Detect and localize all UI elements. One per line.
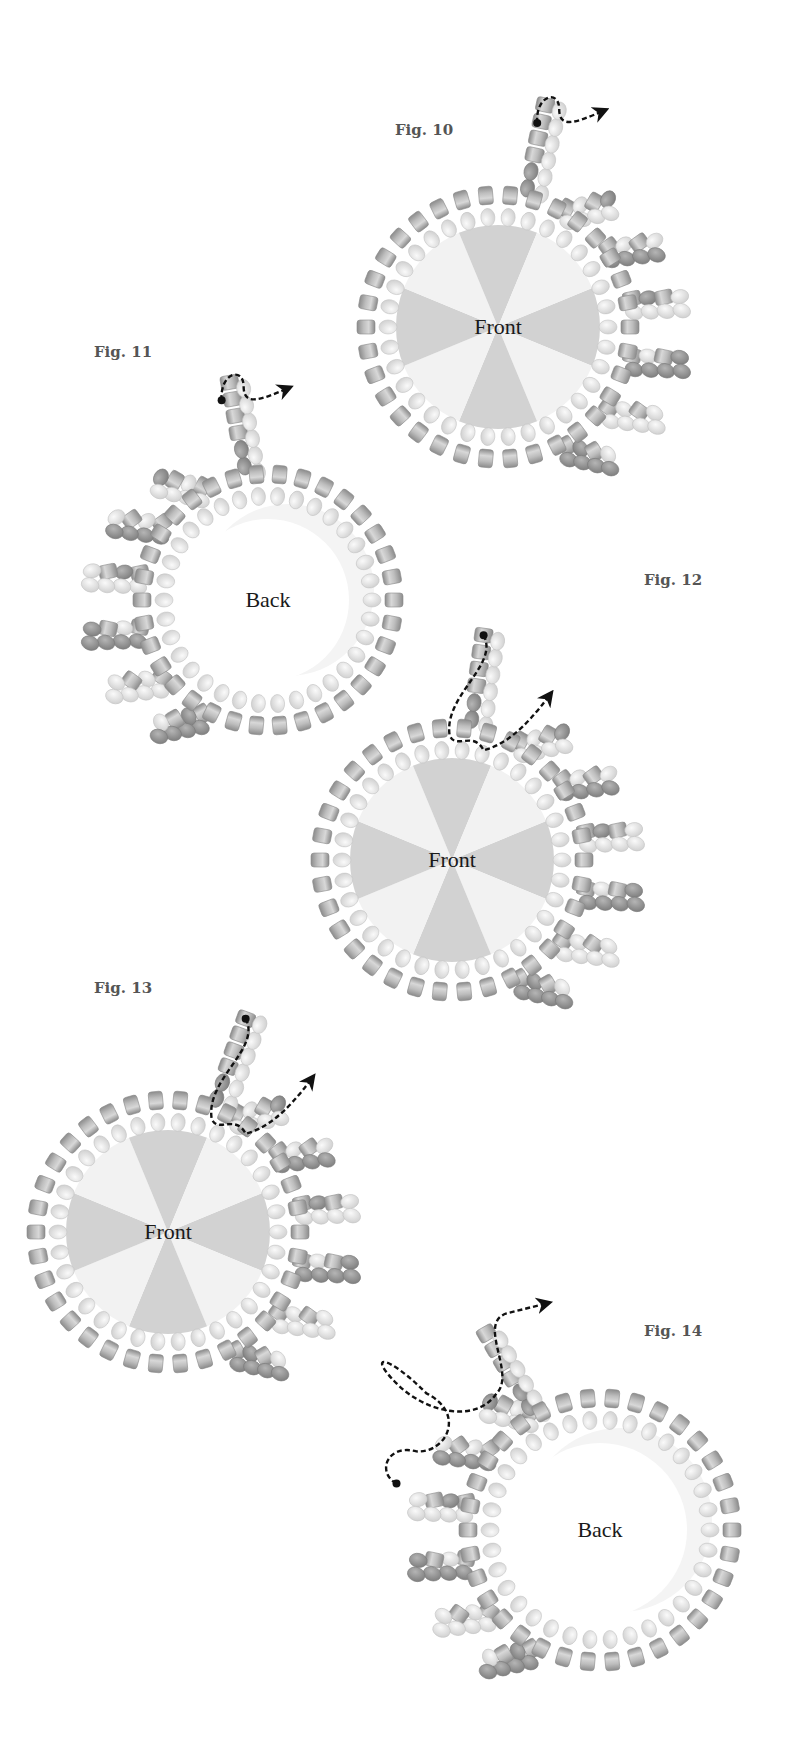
thread-start-dot: [480, 631, 488, 639]
side-label: Front: [428, 847, 476, 873]
thread-start-dot: [533, 119, 541, 127]
figure-label: Fig. 11: [94, 343, 152, 361]
thread-start-dot: [218, 396, 226, 404]
figure-fig10: [357, 96, 693, 478]
figure-fig13: [27, 1009, 363, 1383]
side-label: Front: [144, 1219, 192, 1245]
figure-fig11: [79, 374, 403, 746]
diagram-canvas: [0, 0, 794, 1743]
side-label: Back: [577, 1517, 622, 1543]
figure-label: Fig. 10: [395, 121, 453, 139]
figure-label: Fig. 12: [644, 571, 702, 589]
side-label: Back: [245, 587, 290, 613]
figure-fig14: [382, 1303, 741, 1681]
side-label: Front: [474, 314, 522, 340]
thread-start-dot: [242, 1015, 250, 1023]
figure-label: Fig. 13: [94, 979, 152, 997]
figure-label: Fig. 14: [644, 1322, 702, 1340]
thread-start-dot: [393, 1479, 401, 1487]
